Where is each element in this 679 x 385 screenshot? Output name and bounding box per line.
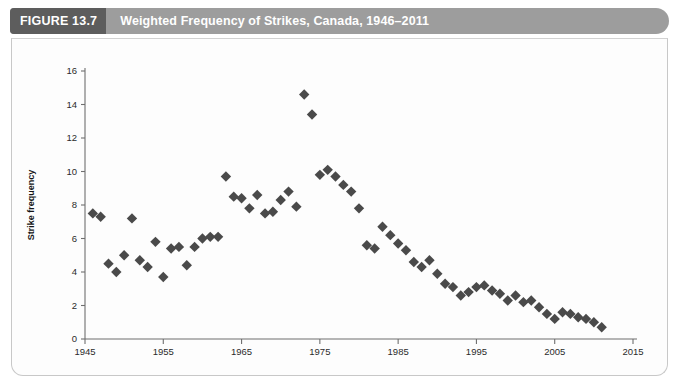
data-point: 2000: 2.6 (510, 290, 520, 300)
data-point: 1954: 5.8 (150, 237, 160, 247)
y-tick-label: 16 (66, 65, 77, 76)
figure-container: FIGURE 13.7 Weighted Frequency of Strike… (0, 0, 679, 385)
data-point: 1986: 5.3 (401, 245, 411, 255)
data-point: 1987: 4.6 (409, 257, 419, 267)
x-tick-label: 1965 (231, 346, 252, 357)
figure-number-tag: FIGURE 13.7 (10, 8, 106, 34)
data-point: 2005: 1.2 (550, 314, 560, 324)
data-point: 1963: 9.7 (221, 171, 231, 181)
y-tick-label: 8 (72, 199, 77, 210)
data-point: 1973: 14.6 (299, 89, 309, 99)
x-tick-label: 2005 (544, 346, 565, 357)
data-point: 1949: 4 (111, 267, 121, 277)
y-tick-label: 2 (72, 300, 77, 311)
x-tick-label: 1945 (74, 346, 95, 357)
data-point: 1984: 6.2 (385, 230, 395, 240)
data-point: 1950: 5 (119, 250, 129, 260)
data-point: 1965: 8.4 (236, 193, 246, 203)
figure-title: Weighted Frequency of Strikes, Canada, 1… (106, 14, 429, 28)
data-point: 1979: 8.8 (346, 186, 356, 196)
data-point: 2006: 1.6 (557, 307, 567, 317)
y-tick-label: 4 (72, 266, 77, 277)
data-point: 1968: 7.5 (260, 208, 270, 218)
data-point: 2011: 0.7 (596, 322, 606, 332)
data-point: 2003: 1.9 (534, 302, 544, 312)
data-point: 1995: 3.1 (471, 282, 481, 292)
data-point: 1977: 9.7 (330, 171, 340, 181)
data-point: 2001: 2.2 (518, 297, 528, 307)
y-axis-label: Strike frequency (26, 170, 36, 241)
data-point: 1970: 8.3 (276, 195, 286, 205)
scatter-chart: 0246810121416 19451955196519751985199520… (12, 39, 669, 377)
data-point: 1974: 13.4 (307, 109, 317, 119)
data-point: 1953: 4.3 (142, 262, 152, 272)
data-point: 1960: 6 (197, 233, 207, 243)
data-point: 1958: 4.4 (182, 260, 192, 270)
x-axis: 19451955196519751985199520052015 (74, 339, 643, 357)
data-point: 1976: 10.1 (322, 165, 332, 175)
data-point: 1978: 9.2 (338, 180, 348, 190)
data-point: 1980: 7.8 (354, 203, 364, 213)
data-point: 1983: 6.7 (377, 222, 387, 232)
data-point: 1989: 4.7 (424, 255, 434, 265)
data-point: 1966: 7.8 (244, 203, 254, 213)
data-point: 1952: 4.7 (135, 255, 145, 265)
chart-plot-area: 0246810121416 19451955196519751985199520… (12, 39, 669, 377)
data-point: 1964: 8.5 (229, 191, 239, 201)
y-axis: 0246810121416 (66, 65, 85, 344)
y-axis-title: Strike frequency (26, 170, 36, 241)
data-point: 1971: 8.8 (283, 186, 293, 196)
x-tick-label: 1955 (153, 346, 174, 357)
y-tick-label: 14 (66, 99, 77, 110)
data-point: 1988: 4.3 (416, 262, 426, 272)
data-point: 1948: 4.5 (103, 258, 113, 268)
data-point: 1955: 3.7 (158, 272, 168, 282)
data-point: 2004: 1.5 (542, 309, 552, 319)
data-point: 1951: 7.2 (127, 213, 137, 223)
x-tick-label: 1975 (309, 346, 330, 357)
y-tick-label: 10 (66, 166, 77, 177)
x-tick-label: 1985 (388, 346, 409, 357)
data-point: 2002: 2.3 (526, 295, 536, 305)
y-tick-label: 6 (72, 233, 77, 244)
data-point: 1999: 2.3 (503, 295, 513, 305)
data-point: 1969: 7.6 (268, 207, 278, 217)
y-tick-label: 12 (66, 132, 77, 143)
data-point: 1956: 5.4 (166, 243, 176, 253)
data-point: 1959: 5.5 (189, 242, 199, 252)
x-tick-label: 1995 (466, 346, 487, 357)
data-point: 1957: 5.5 (174, 242, 184, 252)
data-point: 1985: 5.7 (393, 238, 403, 248)
x-tick-label: 2015 (622, 346, 643, 357)
data-point: 1990: 3.9 (432, 268, 442, 278)
chart-frame: 0246810121416 19451955196519751985199520… (11, 38, 668, 376)
figure-header-band: FIGURE 13.7 Weighted Frequency of Strike… (10, 8, 669, 34)
data-point: 1975: 9.8 (315, 170, 325, 180)
data-point: 1996: 3.2 (479, 280, 489, 290)
data-point: 1967: 8.6 (252, 190, 262, 200)
data-point: 1972: 7.9 (291, 201, 301, 211)
y-tick-label: 0 (72, 333, 77, 344)
data-point: 1962: 6.1 (213, 232, 223, 242)
data-points-layer: 1946: 7.51947: 7.31948: 4.51949: 41950: … (88, 89, 607, 332)
